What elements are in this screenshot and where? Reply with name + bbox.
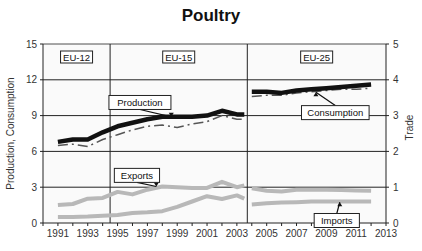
y2-axis-label: Trade — [404, 114, 415, 140]
x-tick-label: 1997 — [136, 228, 159, 239]
y-tick-label: 3 — [31, 182, 37, 193]
x-tick-label: 2009 — [315, 228, 338, 239]
chart-title: Poultry — [0, 6, 422, 26]
region-label: EU-25 — [303, 52, 330, 63]
annotation-label-exports: Exports — [121, 170, 153, 181]
y-tick-label: 9 — [31, 110, 37, 121]
x-tick-label: 2003 — [226, 228, 249, 239]
y2-tick-label: 2 — [393, 146, 399, 157]
x-tick-label: 2007 — [285, 228, 308, 239]
x-tick-label: 2005 — [256, 228, 279, 239]
y-tick-label: 0 — [31, 218, 37, 229]
poultry-chart: Poultry 03691215012345199119931995199719… — [0, 0, 422, 251]
y2-tick-label: 4 — [393, 74, 399, 85]
plot-area: 0369121501234519911993199519971999200120… — [0, 0, 422, 251]
annotation-label-production: Production — [117, 97, 162, 108]
annotation-label-imports: Imports — [321, 215, 353, 226]
annotation-label-consumption: Consumption — [307, 107, 363, 118]
x-tick-label: 1999 — [166, 228, 189, 239]
y2-tick-label: 1 — [393, 182, 399, 193]
x-tick-label: 2011 — [345, 228, 367, 239]
y2-tick-label: 3 — [393, 110, 399, 121]
x-tick-label: 2001 — [196, 228, 219, 239]
x-tick-label: 1991 — [47, 228, 70, 239]
region-label: EU-15 — [165, 52, 192, 63]
y-tick-label: 6 — [31, 146, 37, 157]
y-tick-label: 12 — [26, 74, 38, 85]
y2-tick-label: 0 — [393, 218, 399, 229]
y-axis-label: Production, Consumption — [5, 77, 16, 189]
x-tick-label: 1993 — [77, 228, 100, 239]
region-label: EU-12 — [63, 52, 90, 63]
x-tick-label: 2013 — [375, 228, 398, 239]
y2-tick-label: 5 — [393, 39, 399, 50]
x-tick-label: 1995 — [106, 228, 129, 239]
y-tick-label: 15 — [26, 39, 38, 50]
